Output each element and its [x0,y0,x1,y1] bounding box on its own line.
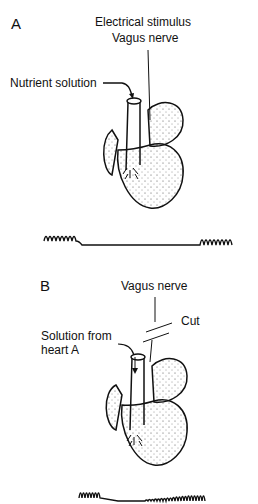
heart-b-icon [106,354,187,465]
heartbeat-trace-b [79,493,205,501]
heart-a-icon [104,98,183,208]
diagram-drawing [0,0,258,504]
nutrient-arrow-icon [103,83,132,96]
heartbeat-trace-a [44,237,232,246]
cut-mark-1 [146,323,172,332]
solution-arrow-icon [118,344,134,355]
cut-mark-2 [143,333,169,342]
